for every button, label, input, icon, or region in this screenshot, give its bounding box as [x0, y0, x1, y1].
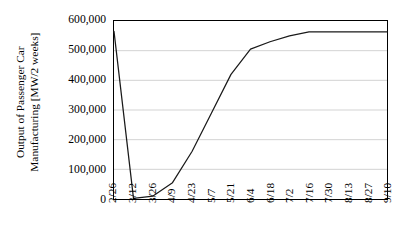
y-axis-tick-label: 600,000 [68, 14, 106, 26]
plot-area [113, 20, 388, 200]
y-axis-title-line-1: Output of Passenger Car [14, 33, 28, 172]
x-axis-tick-label-text: 9/10 [382, 183, 393, 203]
y-axis-tick-label: 400,000 [68, 74, 106, 86]
line-chart: Output of Passenger Car Manufacturing [M… [0, 0, 405, 249]
x-axis-tick-label-text: 7/16 [304, 183, 315, 203]
x-axis-tick-label-text: 6/4 [245, 189, 256, 203]
data-series-line [114, 21, 387, 199]
x-axis-tick-label-text: 5/21 [225, 183, 236, 203]
y-axis-tick-label: 500,000 [68, 44, 106, 56]
x-axis-tick-label-text: 2/26 [107, 183, 118, 203]
x-axis-tick-label-text: 4/23 [186, 183, 197, 203]
x-axis-tick-labels: 2/263/123/264/94/235/75/216/46/187/27/16… [113, 201, 388, 249]
x-axis-tick-label-text: 7/30 [323, 183, 334, 203]
x-axis-tick-label-text: 7/2 [284, 189, 295, 203]
y-axis-tick-label: 300,000 [68, 104, 106, 116]
x-axis-tick-label-text: 3/26 [147, 183, 158, 203]
series-line [114, 31, 387, 198]
y-axis-title: Output of Passenger Car Manufacturing [M… [0, 0, 56, 205]
x-axis-tick-label-text: 8/13 [343, 183, 354, 203]
x-axis-tick-label-text: 4/9 [166, 189, 177, 203]
x-axis-tick-label-text: 8/27 [363, 183, 374, 203]
y-axis-tick-label: 100,000 [68, 164, 106, 176]
x-axis-tick-label-text: 5/7 [206, 189, 217, 203]
x-axis-tick-label-text: 6/18 [265, 183, 276, 203]
y-axis-title-line-2: Manufacturing [MW/2 weeks] [28, 33, 42, 172]
y-axis-tick-label: 200,000 [68, 134, 106, 146]
y-axis-tick-labels: 0100,000200,000300,000400,000500,000600,… [52, 0, 110, 249]
x-axis-tick-label-text: 3/12 [127, 183, 138, 203]
